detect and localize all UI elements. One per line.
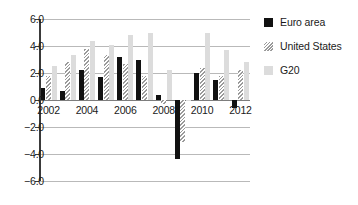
bar-group bbox=[192, 19, 211, 181]
x-axis-tick-label: 2004 bbox=[72, 105, 102, 116]
bar bbox=[224, 50, 229, 100]
bar-group bbox=[58, 19, 77, 181]
bar-group bbox=[116, 19, 135, 181]
x-axis-tick-label: 2006 bbox=[110, 105, 140, 116]
bar bbox=[52, 66, 57, 100]
bar-group bbox=[97, 19, 116, 181]
bar bbox=[98, 77, 103, 100]
bar-group bbox=[173, 19, 192, 181]
bar bbox=[136, 60, 141, 101]
bar-group bbox=[212, 19, 231, 181]
bar bbox=[205, 33, 210, 101]
y-axis-tick-label: −2.0 bbox=[14, 122, 44, 133]
y-axis-tick-label: −4.0 bbox=[14, 149, 44, 160]
plot-area bbox=[39, 19, 250, 181]
bar bbox=[46, 76, 51, 100]
bar bbox=[79, 70, 84, 100]
bar bbox=[128, 35, 133, 100]
bar bbox=[84, 49, 89, 100]
legend-label-g20: G20 bbox=[280, 65, 300, 76]
bar bbox=[213, 80, 218, 100]
bar bbox=[167, 70, 172, 100]
chart-root: Euro area United States G20 6.04.02.00.0… bbox=[0, 0, 358, 205]
legend-item-euro-area: Euro area bbox=[264, 16, 358, 28]
bar-group bbox=[77, 19, 96, 181]
bar bbox=[148, 33, 153, 101]
chart-legend: Euro area United States G20 bbox=[264, 16, 358, 88]
legend-label-united-states: United States bbox=[280, 41, 342, 52]
legend-swatch-g20-icon bbox=[264, 66, 273, 75]
bar-group bbox=[231, 19, 250, 181]
bar bbox=[244, 62, 249, 100]
bar-group bbox=[135, 19, 154, 181]
x-axis-tick-label: 2002 bbox=[34, 105, 64, 116]
bar bbox=[60, 91, 65, 100]
bar bbox=[180, 100, 185, 142]
bar bbox=[90, 41, 95, 100]
bar bbox=[186, 100, 191, 101]
y-axis-tick-label: −6.0 bbox=[14, 176, 44, 187]
legend-label-euro-area: Euro area bbox=[280, 17, 325, 28]
y-axis-tick-label: 6.0 bbox=[14, 14, 44, 25]
bar bbox=[109, 45, 114, 100]
legend-item-g20: G20 bbox=[264, 64, 358, 76]
x-axis-tick-label: 2010 bbox=[187, 105, 217, 116]
bar-group bbox=[154, 19, 173, 181]
bar bbox=[156, 95, 161, 100]
bar bbox=[200, 68, 205, 100]
y-axis-tick-label: 2.0 bbox=[14, 68, 44, 79]
x-axis-tick-label: 2012 bbox=[225, 105, 255, 116]
bar bbox=[238, 70, 243, 100]
bar bbox=[123, 64, 128, 100]
legend-swatch-euro-area-icon bbox=[264, 18, 273, 27]
legend-swatch-united-states-icon bbox=[264, 42, 273, 51]
bar bbox=[104, 55, 109, 100]
legend-item-united-states: United States bbox=[264, 40, 358, 52]
x-axis-tick-label: 2008 bbox=[149, 105, 179, 116]
bar bbox=[71, 55, 76, 100]
bar bbox=[194, 73, 199, 100]
y-axis-tick-label: 4.0 bbox=[14, 41, 44, 52]
bar bbox=[219, 76, 224, 100]
bar bbox=[142, 76, 147, 100]
gridline bbox=[39, 181, 250, 182]
bar bbox=[117, 57, 122, 100]
bar bbox=[65, 62, 70, 100]
